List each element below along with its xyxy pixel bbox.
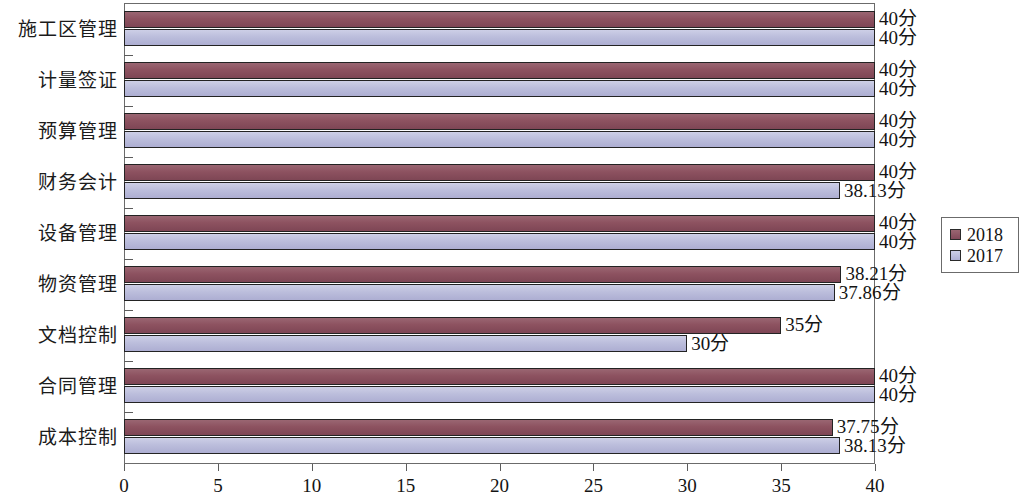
y-axis-tick (124, 157, 133, 158)
bar-pair: 40分40分 (124, 112, 875, 152)
legend-item-2017[interactable]: 2017 (950, 245, 1011, 266)
bar-group: 40分40分 (124, 55, 875, 106)
bar-2017 (124, 80, 875, 97)
bar-pair: 40分40分 (124, 367, 875, 407)
bar-value-label-2018: 35分 (785, 315, 823, 334)
x-axis-tick (218, 464, 219, 471)
bar-pair: 40分40分 (124, 61, 875, 101)
x-axis-tick (781, 464, 782, 471)
bar-2018 (124, 164, 875, 181)
bar-2017 (124, 233, 875, 250)
horizontal-bar-chart: 施工区管理计量签证预算管理财务会计设备管理物资管理文档控制合同管理成本控制 40… (0, 0, 1026, 500)
bar-pair: 37.75分38.13分 (124, 418, 875, 458)
bar-value-label-2017: 37.86分 (839, 283, 901, 302)
y-axis-tick (124, 259, 133, 260)
bar-2017 (124, 284, 835, 301)
chart-legend: 2018 2017 (941, 217, 1019, 273)
bar-group: 40分38.13分 (124, 157, 875, 208)
bar-2018 (124, 215, 875, 232)
bar-pair: 40分40分 (124, 214, 875, 254)
bar-value-label-2018: 40分 (879, 366, 917, 385)
y-axis-label-3: 预算管理 (0, 122, 118, 141)
y-axis-tick (124, 310, 133, 311)
bar-value-label-2017: 40分 (879, 130, 917, 149)
y-axis-label-6: 物资管理 (0, 275, 118, 294)
bar-value-label-2017: 30分 (691, 334, 729, 353)
y-axis-label-7: 文档控制 (0, 326, 118, 345)
bar-2017 (124, 29, 875, 46)
bar-group: 38.21分37.86分 (124, 259, 875, 310)
bar-value-label-2017: 40分 (879, 232, 917, 251)
y-axis-label-4: 财务会计 (0, 173, 118, 192)
bar-pair: 40分40分 (124, 10, 875, 50)
y-axis-label-5: 设备管理 (0, 224, 118, 243)
x-axis-tick (406, 464, 407, 471)
bar-value-label-2017: 38.13分 (844, 181, 906, 200)
bar-2017 (124, 386, 875, 403)
y-axis-tick (124, 208, 133, 209)
y-axis-tick (124, 106, 133, 107)
bar-2018 (124, 266, 841, 283)
y-axis-tick (124, 412, 133, 413)
y-axis-tick (124, 55, 133, 56)
legend-swatch-2018-icon (950, 229, 961, 240)
bar-2017 (124, 437, 840, 454)
y-axis-label-8: 合同管理 (0, 377, 118, 396)
bar-group: 40分40分 (124, 106, 875, 157)
bar-group: 40分40分 (124, 361, 875, 412)
bar-2017 (124, 182, 840, 199)
legend-label-2018: 2018 (967, 226, 1003, 244)
x-axis-tick-label: 20 (490, 476, 509, 495)
bar-group: 40分40分 (124, 4, 875, 55)
bar-2018 (124, 113, 875, 130)
x-axis: 0510152025303540 (124, 464, 875, 472)
bar-2017 (124, 335, 687, 352)
x-axis-tick (593, 464, 594, 471)
y-axis-label-1: 施工区管理 (0, 20, 118, 39)
bar-group: 40分40分 (124, 208, 875, 259)
x-axis-tick (124, 464, 125, 471)
bar-group: 37.75分38.13分 (124, 412, 875, 463)
x-axis-tick-label: 5 (213, 476, 223, 495)
y-axis-label-9: 成本控制 (0, 428, 118, 447)
x-axis-tick-label: 10 (302, 476, 321, 495)
chart-plot-rows: 40分40分40分40分40分40分40分38.13分40分40分38.21分3… (124, 4, 875, 463)
x-axis-tick-label: 0 (119, 476, 129, 495)
bar-value-label-2018: 40分 (879, 9, 917, 28)
bar-2018 (124, 62, 875, 79)
x-axis-tick-label: 30 (678, 476, 697, 495)
bar-pair: 40分38.13分 (124, 163, 875, 203)
x-axis-tick-label: 15 (396, 476, 415, 495)
legend-swatch-2017-icon (950, 250, 961, 261)
x-axis-tick (687, 464, 688, 471)
bar-value-label-2017: 40分 (879, 79, 917, 98)
bar-value-label-2018: 38.21分 (845, 264, 907, 283)
x-axis-tick-label: 40 (866, 476, 885, 495)
bar-value-label-2018: 37.75分 (837, 417, 899, 436)
legend-label-2017: 2017 (967, 247, 1003, 265)
bar-2018 (124, 317, 781, 334)
bar-2018 (124, 11, 875, 28)
bar-value-label-2017: 40分 (879, 28, 917, 47)
bar-value-label-2017: 38.13分 (844, 436, 906, 455)
bar-value-label-2018: 40分 (879, 162, 917, 181)
bar-value-label-2018: 40分 (879, 60, 917, 79)
x-axis-tick-label: 25 (584, 476, 603, 495)
bar-value-label-2018: 40分 (879, 213, 917, 232)
y-axis-label-2: 计量签证 (0, 71, 118, 90)
y-axis-category-labels: 施工区管理计量签证预算管理财务会计设备管理物资管理文档控制合同管理成本控制 (0, 4, 118, 463)
bar-group: 35分30分 (124, 310, 875, 361)
x-axis-tick-label: 35 (772, 476, 791, 495)
x-axis-tick (312, 464, 313, 471)
bar-pair: 38.21分37.86分 (124, 265, 875, 305)
x-axis-tick (875, 464, 876, 471)
bar-2018 (124, 368, 875, 385)
x-axis-tick (500, 464, 501, 471)
bar-value-label-2017: 40分 (879, 385, 917, 404)
bar-2017 (124, 131, 875, 148)
bar-value-label-2018: 40分 (879, 111, 917, 130)
legend-item-2018[interactable]: 2018 (950, 224, 1011, 245)
y-axis-tick (124, 361, 133, 362)
bar-pair: 35分30分 (124, 316, 875, 356)
bar-2018 (124, 419, 833, 436)
